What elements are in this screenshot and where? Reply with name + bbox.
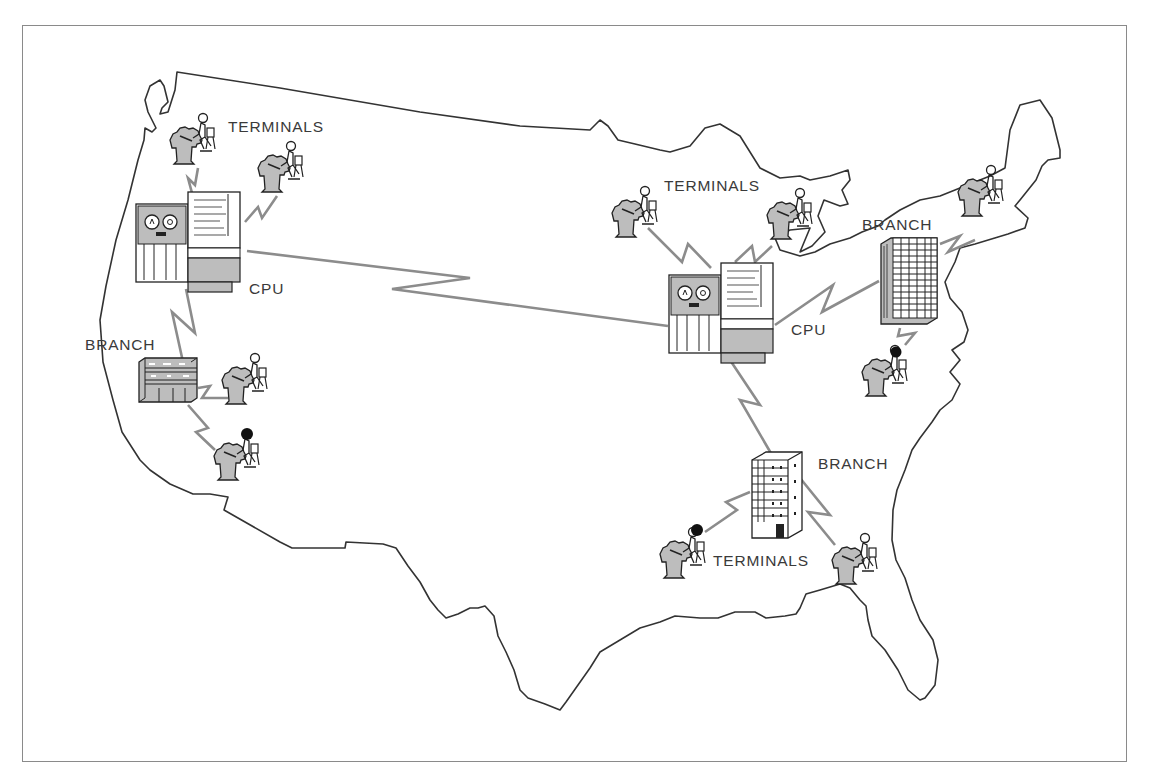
southeast-branch-building-icon <box>752 452 802 538</box>
northeast-branch-building-icon <box>881 238 937 324</box>
southeast-terminals-label: TERMINALS <box>713 552 809 570</box>
west-branch-label: BRANCH <box>85 336 155 354</box>
northeast-branch-label: BRANCH <box>862 216 932 234</box>
operator-hair-icon <box>691 524 703 536</box>
west-cpu-icon <box>136 192 240 292</box>
diagram-canvas <box>0 0 1152 782</box>
west-terminals-label: TERMINALS <box>228 118 324 136</box>
operator-hair-icon <box>241 428 253 440</box>
southeast-branch-label: BRANCH <box>818 455 888 473</box>
west-branch-building-icon <box>139 358 197 402</box>
network-diagram: TERMINALS CPU BRANCH TERMINALS CPU BRANC… <box>0 0 1152 782</box>
central-cpu-icon <box>669 263 773 363</box>
central-terminals-label: TERMINALS <box>664 177 760 195</box>
west-cpu-label: CPU <box>249 280 284 298</box>
operator-hair-icon <box>891 347 902 358</box>
central-cpu-label: CPU <box>791 321 826 339</box>
